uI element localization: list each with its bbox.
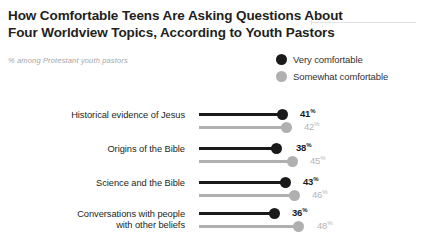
dot-very-comfortable [269,208,280,219]
value-very-comfortable: 38% [296,142,312,153]
value-very-comfortable: 41% [300,108,316,119]
value-somewhat-comfortable: 46% [312,189,328,200]
value-very-comfortable: 36% [292,207,308,218]
lollipop-chart: Historical evidence of Jesus 41% 42% Ori… [0,0,422,241]
bar-very-comfortable [199,147,278,150]
value-somewhat-comfortable: 42% [304,121,320,132]
dot-very-comfortable [280,177,291,188]
value-somewhat-comfortable: 45% [310,155,326,166]
dot-somewhat-comfortable [293,221,304,232]
bar-somewhat-comfortable [199,225,300,228]
dot-very-comfortable [277,109,288,120]
bar-very-comfortable [199,181,287,184]
bar-very-comfortable [199,113,284,116]
bar-somewhat-comfortable [199,126,288,129]
dot-somewhat-comfortable [287,156,298,167]
value-somewhat-comfortable: 48% [317,220,333,231]
bar-somewhat-comfortable [199,194,296,197]
row-label: Origins of the Bible [0,144,185,155]
dot-somewhat-comfortable [281,122,292,133]
row-label: Historical evidence of Jesus [0,110,185,121]
row-label-line-2: with other beliefs [0,220,185,231]
bar-somewhat-comfortable [199,160,294,163]
dot-very-comfortable [271,143,282,154]
value-very-comfortable: 43% [303,176,319,187]
row-label: Conversations with people [0,209,185,220]
dot-somewhat-comfortable [289,190,300,201]
bar-very-comfortable [199,212,275,215]
row-label: Science and the Bible [0,178,185,189]
